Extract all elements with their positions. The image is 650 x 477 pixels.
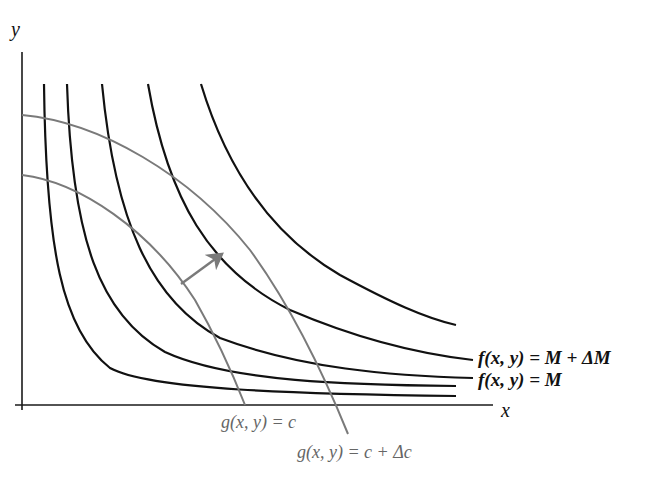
level-curves bbox=[44, 84, 473, 396]
diagram-canvas: y x f(x, y) = M + ΔM f(x, y) = M g(x, y)… bbox=[0, 0, 650, 477]
level-curve-2 bbox=[67, 84, 456, 386]
label-f-M-plus-dM: f(x, y) = M + ΔM bbox=[478, 347, 612, 369]
axes bbox=[15, 52, 493, 410]
constraint-curve-c-plus-dc bbox=[22, 115, 348, 434]
level-curve-5 bbox=[201, 84, 456, 325]
constraint-curves bbox=[22, 115, 348, 434]
x-axis-label: x bbox=[500, 399, 510, 421]
label-g-c-plus-dc: g(x, y) = c + Δc bbox=[297, 442, 412, 463]
level-curve-4-M-plus-dM bbox=[148, 84, 473, 360]
label-g-c: g(x, y) = c bbox=[221, 412, 296, 433]
y-axis-label: y bbox=[9, 18, 20, 41]
gradient-arrow bbox=[181, 254, 222, 284]
label-f-M: f(x, y) = M bbox=[478, 369, 563, 391]
